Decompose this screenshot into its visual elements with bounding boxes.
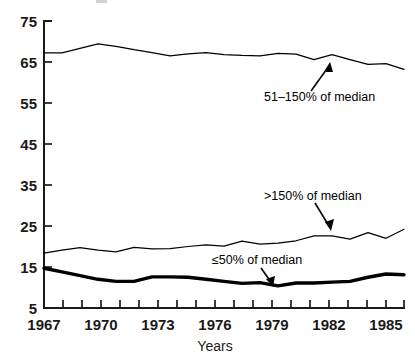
x-tick-label: 1973 (141, 316, 174, 333)
annotation-upper-label: 51–150% of median (264, 90, 375, 104)
x-tick-label: 1979 (255, 316, 288, 333)
y-tick-label: 75 (20, 13, 37, 30)
x-tick-label: 1976 (198, 316, 231, 333)
annotation-middle-label: >150% of median (264, 189, 362, 203)
y-tick-label: 15 (20, 259, 37, 276)
annotation-lower-label: ≤50% of median (212, 253, 302, 267)
x-tick-label: 1985 (369, 316, 402, 333)
y-tick-label: 45 (20, 136, 37, 153)
y-tick-label: 65 (20, 54, 37, 71)
line-chart-figure: 75 65 55 45 35 25 15 5 1967 1970 1973 19… (0, 0, 415, 358)
y-tick-label: 5 (29, 300, 37, 317)
x-axis-title: Years (197, 338, 232, 354)
x-tick-label: 1982 (312, 316, 345, 333)
y-tick-label: 25 (20, 218, 37, 235)
x-tick-label: 1970 (84, 316, 117, 333)
y-tick-label: 35 (20, 177, 37, 194)
cropped-title-remnant (96, 0, 107, 3)
y-tick-label: 55 (20, 95, 37, 112)
x-tick-label: 1967 (27, 316, 60, 333)
